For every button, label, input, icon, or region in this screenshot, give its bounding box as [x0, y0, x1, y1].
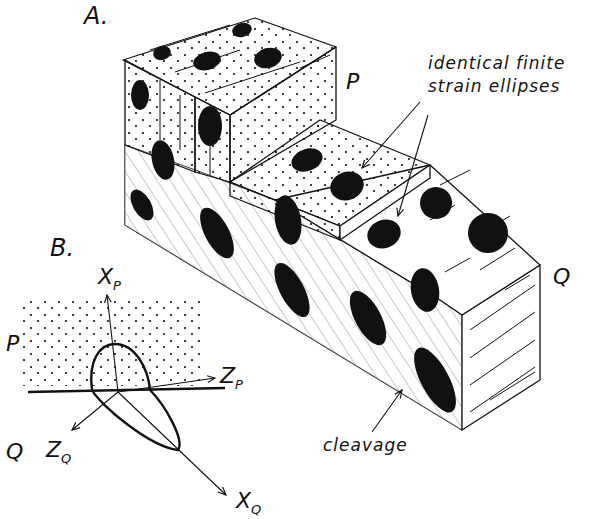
- unit-p-label-b: P: [6, 333, 19, 355]
- axis-zq-label: ZQ: [46, 439, 71, 461]
- axis-zp-label: ZP: [220, 365, 243, 387]
- unit-q-label-b: Q: [6, 441, 23, 463]
- pq-boundary: [28, 388, 225, 392]
- strain-ellipse-diagram-b: [22, 295, 226, 495]
- annotation-cleavage: cleavage: [323, 437, 408, 454]
- panel-b-label: B.: [50, 236, 74, 260]
- axis-xq-label: XQ: [236, 490, 261, 512]
- ellipse-q-half: [92, 390, 179, 450]
- annotation-ellipses-line1: identical finite: [428, 55, 565, 72]
- panel-a-label: A.: [84, 4, 109, 28]
- unit-p-label-a: P: [346, 71, 359, 93]
- annotation-ellipses-line2: strain ellipses: [428, 78, 560, 95]
- unit-q-label-a: Q: [553, 266, 570, 288]
- axis-xp-label: XP: [98, 266, 121, 288]
